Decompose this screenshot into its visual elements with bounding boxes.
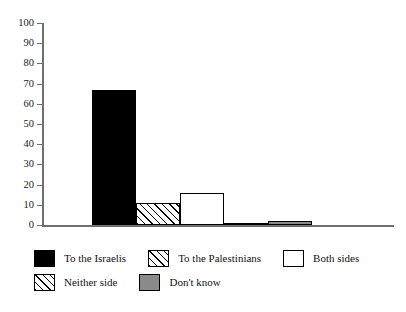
y-tick-label-90: 90	[24, 38, 35, 49]
legend-label-both-sides: Both sides	[313, 253, 359, 264]
y-tick-label-100: 100	[18, 18, 34, 29]
bar-to-the-palestinians	[136, 203, 180, 225]
legend-item-both-sides: Both sides	[283, 250, 359, 267]
plot-area: 100 90 80 70 60 50 40 30	[42, 23, 394, 225]
y-tick-label-70: 70	[24, 78, 35, 89]
bar-both-sides	[180, 193, 224, 225]
legend-label-neither-side: Neither side	[64, 277, 117, 288]
bar-to-the-israelis	[92, 90, 136, 225]
legend-label-dont-know: Don't know	[169, 277, 220, 288]
y-axis-line	[42, 23, 44, 225]
legend-swatch-diagonal-hatch-icon	[148, 250, 169, 267]
legend-item-to-the-israelis: To the Israelis	[34, 250, 126, 267]
legend-label-to-the-palestinians: To the Palestinians	[178, 253, 261, 264]
x-axis-line	[42, 225, 394, 227]
figure-title-sliver	[10, 0, 400, 4]
bar-dont-know	[268, 221, 312, 225]
legend-item-to-the-palestinians: To the Palestinians	[148, 250, 261, 267]
bar-neither-side	[224, 223, 268, 225]
legend-item-neither-side: Neither side	[34, 274, 117, 291]
legend-swatch-white-icon	[283, 250, 304, 267]
y-tick-label-60: 60	[24, 99, 35, 110]
legend-swatch-diagonal-hatch-2-icon	[34, 274, 55, 291]
legend-row-2: Neither side Don't know	[34, 270, 396, 294]
legend-swatch-solid-black-icon	[34, 250, 55, 267]
legend-item-dont-know: Don't know	[139, 274, 220, 291]
y-tick-label-30: 30	[24, 159, 35, 170]
chart-figure: 100 90 80 70 60 50 40 30	[0, 0, 406, 312]
y-tick-label-80: 80	[24, 58, 35, 69]
legend-row-1: To the Israelis To the Palestinians Both…	[34, 246, 396, 270]
chart-legend: To the Israelis To the Palestinians Both…	[34, 246, 396, 294]
legend-label-to-the-israelis: To the Israelis	[64, 253, 126, 264]
y-tick-label-20: 20	[24, 179, 35, 190]
y-tick-label-10: 10	[24, 200, 35, 211]
y-tick-label-50: 50	[24, 119, 35, 130]
y-tick-label-0: 0	[29, 220, 34, 231]
y-tick-label-40: 40	[24, 139, 35, 150]
legend-swatch-solid-gray-icon	[139, 274, 160, 291]
